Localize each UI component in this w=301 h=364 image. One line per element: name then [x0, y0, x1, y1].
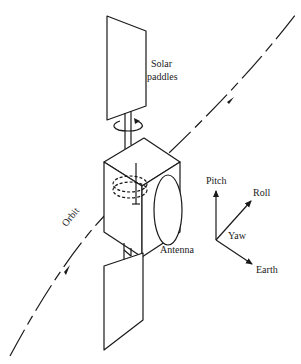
earth-axis-arrow-icon: [216, 240, 252, 264]
earth-label: Earth: [256, 265, 278, 275]
orbit-arrow-lower-icon: [64, 265, 70, 275]
solar-paddles-label-line2: paddles: [147, 72, 178, 82]
antenna-dish: [154, 175, 182, 245]
antenna-label: Antenna: [160, 245, 194, 255]
rotation-arrow-icon: [114, 118, 142, 131]
satellite-diagram: [0, 0, 301, 364]
orbit-arrow-upper-icon: [227, 97, 234, 104]
lower-solar-paddle: [104, 253, 143, 350]
upper-shaft: [125, 111, 131, 149]
roll-label: Roll: [253, 188, 270, 198]
upper-solar-paddle: [107, 16, 146, 120]
pitch-label: Pitch: [206, 176, 227, 186]
yaw-label: Yaw: [228, 231, 246, 241]
solar-paddles-label-line1: Solar: [151, 59, 172, 69]
attitude-axes: [216, 191, 252, 264]
